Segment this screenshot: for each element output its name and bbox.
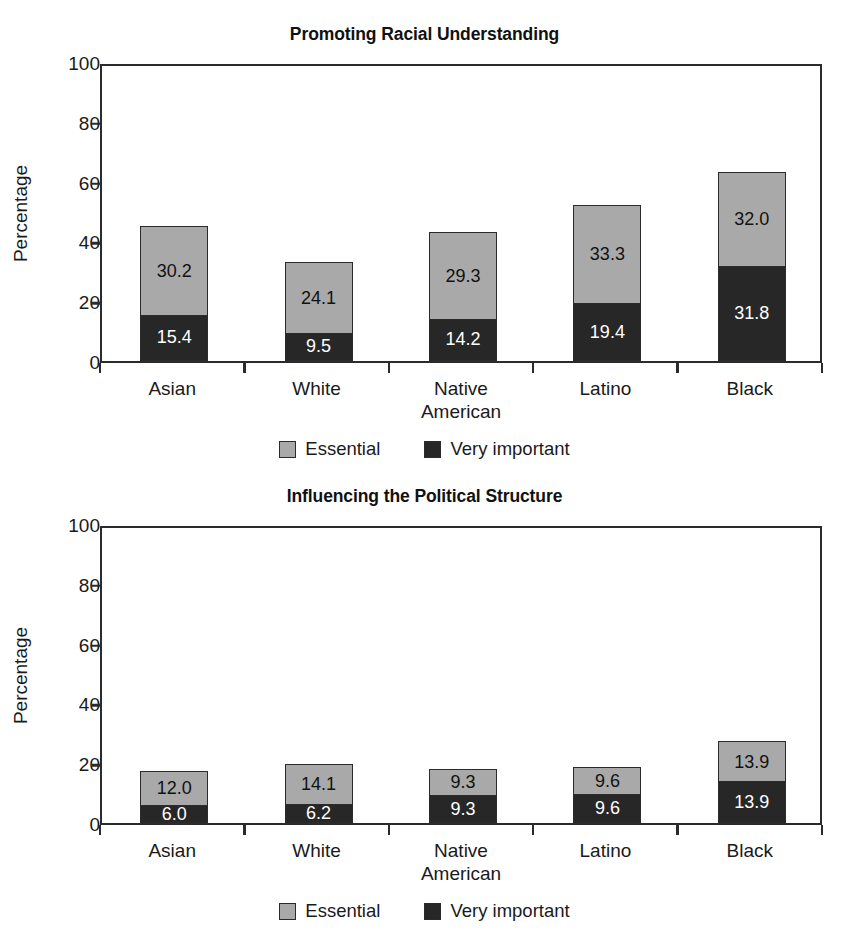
x-tick-label: NativeAmerican bbox=[381, 377, 541, 423]
bar-segment-very-important: 31.8 bbox=[718, 266, 786, 361]
bar-segment-essential: 24.1 bbox=[285, 262, 353, 334]
x-tick-label: Black bbox=[670, 377, 830, 400]
y-tick-mark bbox=[91, 704, 100, 707]
x-tick-label-line: Latino bbox=[525, 377, 685, 400]
y-axis: 020406080100 bbox=[0, 526, 100, 825]
bar-value-essential: 29.3 bbox=[445, 266, 480, 287]
chart-legend: EssentialVery important bbox=[0, 438, 849, 460]
chart-title: Promoting Racial Understanding bbox=[0, 24, 849, 45]
x-tick-label-line: Black bbox=[670, 839, 830, 862]
bar-value-essential: 32.0 bbox=[734, 209, 769, 230]
x-tick-label-line: White bbox=[237, 839, 397, 862]
y-tick-label: 100 bbox=[40, 53, 100, 75]
x-tick-label: White bbox=[237, 377, 397, 400]
x-tick-label-line: American bbox=[381, 862, 541, 885]
x-tick-label: Black bbox=[670, 839, 830, 862]
bar-value-essential: 24.1 bbox=[301, 288, 336, 309]
x-tick-label: Latino bbox=[525, 377, 685, 400]
bar-segment-essential: 13.9 bbox=[718, 741, 786, 783]
x-axis bbox=[0, 363, 849, 377]
bar-segment-essential: 14.1 bbox=[285, 764, 353, 806]
bar-segment-essential: 9.3 bbox=[429, 769, 497, 797]
bar-segment-essential: 12.0 bbox=[140, 771, 208, 807]
bar-value-essential: 13.9 bbox=[734, 752, 769, 773]
chart-title: Influencing the Political Structure bbox=[0, 486, 849, 507]
x-tick-mark bbox=[676, 363, 679, 373]
chart-influencing-the-political-structure: Influencing the Political Structure Perc… bbox=[0, 462, 849, 932]
bar-value-essential: 12.0 bbox=[157, 778, 192, 799]
x-tick-mark bbox=[532, 825, 535, 835]
chart-promoting-racial-understanding: Promoting Racial Understanding Percentag… bbox=[0, 0, 849, 470]
bar-segment-very-important: 13.9 bbox=[718, 781, 786, 823]
bar-native-american: 29.314.2 bbox=[429, 234, 497, 361]
bar-value-very-important: 13.9 bbox=[734, 792, 769, 813]
x-tick-mark bbox=[532, 363, 535, 373]
x-tick-label-line: Native bbox=[381, 377, 541, 400]
bar-value-essential: 9.6 bbox=[595, 771, 620, 792]
x-tick-mark bbox=[821, 825, 824, 835]
bar-latino: 9.69.6 bbox=[573, 769, 641, 823]
x-tick-label-line: American bbox=[381, 400, 541, 423]
bar-value-very-important: 19.4 bbox=[590, 322, 625, 343]
x-tick-label: Asian bbox=[92, 377, 252, 400]
bar-white: 24.19.5 bbox=[285, 264, 353, 361]
bar-segment-essential: 29.3 bbox=[429, 232, 497, 320]
x-tick-label-line: Black bbox=[670, 377, 830, 400]
y-tick-mark bbox=[91, 644, 100, 647]
y-tick-mark bbox=[91, 182, 100, 185]
legend-item-very-important: Very important bbox=[424, 900, 569, 922]
x-tick-label-line: White bbox=[237, 377, 397, 400]
x-tick-label-line: Asian bbox=[92, 839, 252, 862]
bar-segment-essential: 9.6 bbox=[573, 767, 641, 796]
bar-segment-very-important: 6.2 bbox=[285, 804, 353, 823]
bar-black: 13.913.9 bbox=[718, 743, 786, 823]
plot-area: 12.06.014.16.29.39.39.69.613.913.9 bbox=[100, 526, 822, 825]
x-tick-label: NativeAmerican bbox=[381, 839, 541, 885]
bar-value-essential: 30.2 bbox=[157, 261, 192, 282]
x-tick-mark bbox=[388, 363, 391, 373]
bar-value-very-important: 14.2 bbox=[445, 329, 480, 350]
x-tick-mark bbox=[99, 825, 102, 835]
bar-value-very-important: 6.0 bbox=[162, 805, 187, 823]
y-tick-mark bbox=[91, 764, 100, 767]
x-tick-mark bbox=[388, 825, 391, 835]
bar-white: 14.16.2 bbox=[285, 765, 353, 823]
bar-segment-essential: 33.3 bbox=[573, 205, 641, 305]
legend-swatch-icon bbox=[424, 903, 441, 920]
bar-asian: 12.06.0 bbox=[140, 772, 208, 823]
y-tick-mark bbox=[91, 242, 100, 245]
x-tick-label-line: Latino bbox=[525, 839, 685, 862]
legend-item-very-important: Very important bbox=[424, 438, 569, 460]
x-tick-mark bbox=[243, 363, 246, 373]
x-tick-mark bbox=[676, 825, 679, 835]
legend-swatch-icon bbox=[279, 903, 296, 920]
bar-segment-very-important: 9.5 bbox=[285, 333, 353, 361]
x-tick-label: Asian bbox=[92, 839, 252, 862]
x-tick-mark bbox=[821, 363, 824, 373]
bar-segment-very-important: 14.2 bbox=[429, 319, 497, 361]
bar-asian: 30.215.4 bbox=[140, 228, 208, 361]
bar-segment-very-important: 9.6 bbox=[573, 794, 641, 823]
x-tick-mark bbox=[243, 825, 246, 835]
x-tick-label-line: Native bbox=[381, 839, 541, 862]
bar-value-very-important: 9.3 bbox=[450, 799, 475, 820]
chart-legend: EssentialVery important bbox=[0, 900, 849, 922]
bar-segment-essential: 30.2 bbox=[140, 226, 208, 316]
legend-label: Very important bbox=[450, 438, 569, 460]
x-tick-label: White bbox=[237, 839, 397, 862]
bar-value-very-important: 9.5 bbox=[306, 336, 331, 357]
y-tick-label: 100 bbox=[40, 515, 100, 537]
x-tick-label-line: Asian bbox=[92, 377, 252, 400]
legend-swatch-icon bbox=[424, 441, 441, 458]
bar-native-american: 9.39.3 bbox=[429, 770, 497, 823]
bar-value-very-important: 6.2 bbox=[306, 804, 331, 823]
y-tick-mark bbox=[91, 123, 100, 126]
bar-segment-very-important: 19.4 bbox=[573, 303, 641, 361]
bar-black: 32.031.8 bbox=[718, 173, 786, 361]
y-tick-mark bbox=[91, 585, 100, 588]
legend-item-essential: Essential bbox=[279, 438, 380, 460]
bar-latino: 33.319.4 bbox=[573, 206, 641, 361]
bar-value-very-important: 31.8 bbox=[734, 303, 769, 324]
legend-swatch-icon bbox=[279, 441, 296, 458]
y-tick-mark bbox=[91, 302, 100, 305]
